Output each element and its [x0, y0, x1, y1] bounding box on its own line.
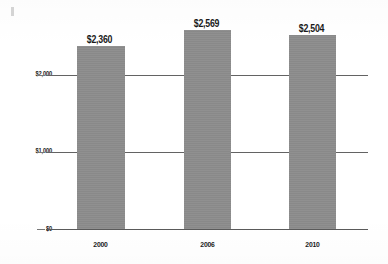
bar-value-text-2010: $2,504	[299, 23, 324, 34]
bar-value-label-2000: $2,360	[58, 34, 142, 45]
axis-baseline-0	[46, 229, 368, 230]
bar-2010[interactable]	[289, 35, 336, 229]
bar-texture-2000	[77, 46, 125, 229]
x-axis-text-2000: 2000	[93, 240, 107, 249]
y-tick-stub-0	[37, 229, 45, 230]
bar-2006[interactable]	[184, 30, 231, 229]
bar-texture-2006	[184, 30, 231, 229]
bar-value-label-2010: $2,504	[270, 23, 354, 34]
bar-2000[interactable]	[77, 46, 125, 229]
y-tick-stub-2000	[37, 75, 45, 76]
y-tick-stub-1000	[37, 152, 45, 153]
bar-value-text-2000: $2,360	[87, 34, 112, 45]
bar-chart: $2,000 $1,000 $0 $2,360 $2	[0, 0, 388, 264]
x-axis-label-2010: 2010	[272, 240, 353, 249]
scan-artifact	[11, 7, 14, 16]
bar-texture-2010	[289, 35, 336, 229]
x-axis-text-2006: 2006	[200, 240, 214, 249]
x-axis-label-2000: 2000	[60, 240, 141, 249]
x-axis-text-2010: 2010	[305, 240, 319, 249]
bar-value-text-2006: $2,569	[194, 18, 219, 29]
bar-value-label-2006: $2,569	[165, 18, 249, 29]
x-axis-label-2006: 2006	[167, 240, 248, 249]
